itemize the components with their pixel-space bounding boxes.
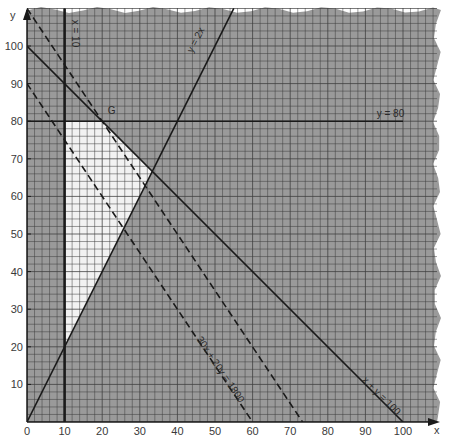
y-tick-label: 80 [11, 115, 23, 127]
y-tick-label: 70 [11, 153, 23, 165]
y-tick-label: 90 [11, 78, 23, 90]
line-label: x = 10 [70, 20, 81, 48]
y-tick-label: 100 [5, 40, 23, 52]
y-tick-label: 40 [11, 266, 23, 278]
x-tick-label: 90 [359, 425, 371, 436]
line-label: y = 80 [377, 108, 405, 119]
y-tick-label: 30 [11, 303, 23, 315]
x-tick-label: 70 [284, 425, 296, 436]
x-tick-label: 30 [134, 425, 146, 436]
y-tick-label: 10 [11, 378, 23, 390]
x-tick-label: 40 [171, 425, 183, 436]
y-tick-label: 50 [11, 228, 23, 240]
linear-programming-graph: x = 10y = 80y = 2xx + y = 10030x + 20y =… [0, 0, 453, 436]
y-tick-label: 60 [11, 190, 23, 202]
x-tick-label: 80 [322, 425, 334, 436]
point-g-label: G [108, 105, 116, 116]
x-tick-label: 20 [96, 425, 108, 436]
x-axis-label: x [434, 424, 440, 436]
x-tick-label: 10 [58, 425, 70, 436]
y-tick-label: 20 [11, 341, 23, 353]
x-tick-label: 100 [394, 425, 412, 436]
x-tick-label: 0 [24, 425, 30, 436]
x-tick-label: 50 [209, 425, 221, 436]
y-axis-label: y [10, 9, 16, 21]
x-tick-label: 60 [246, 425, 258, 436]
